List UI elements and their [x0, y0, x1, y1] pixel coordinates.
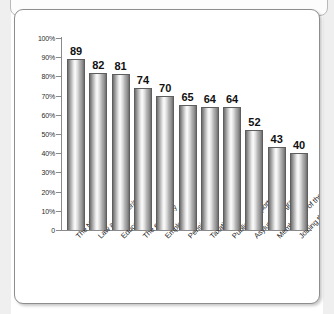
y-axis-tick-label: 80% — [17, 73, 55, 80]
bar-value-label: 43 — [271, 134, 283, 145]
bar-value-label: 64 — [226, 94, 238, 105]
y-axis-tick — [56, 192, 61, 193]
bar-value-label: 74 — [137, 75, 149, 86]
bar-value-label: 65 — [181, 92, 193, 103]
y-axis-tick-label: 70% — [17, 92, 55, 99]
y-axis-tick-label: 30% — [17, 169, 55, 176]
y-axis-tick-label: 10% — [17, 207, 55, 214]
y-axis-tick-labels: 100%90%80%70%60%50%40%30%20%10%0 — [15, 10, 55, 303]
y-axis-tick — [56, 153, 61, 154]
bar-value-label: 40 — [293, 140, 305, 151]
y-axis-tick — [56, 172, 61, 173]
bar — [179, 105, 197, 230]
y-axis-tick-label: 50% — [17, 131, 55, 138]
y-axis-tick-label: 40% — [17, 150, 55, 157]
y-axis-tick-label: 100% — [17, 35, 55, 42]
bar — [67, 59, 85, 230]
y-axis-tick — [56, 57, 61, 58]
bar — [89, 73, 107, 230]
page-gutter-right — [323, 0, 334, 314]
bar — [156, 96, 174, 230]
page-gutter-left — [0, 0, 11, 314]
y-axis-tick — [56, 230, 61, 231]
bar — [245, 130, 263, 230]
bar-value-label: 89 — [70, 46, 82, 57]
bar — [223, 107, 241, 230]
chart-panel: 100%90%80%70%60%50%40%30%20%10%0 The NHS… — [14, 9, 320, 304]
bar-value-label: 81 — [114, 61, 126, 72]
y-axis-tick-label: 0 — [17, 227, 55, 234]
y-axis-tick — [56, 115, 61, 116]
bar — [112, 74, 130, 230]
y-axis-tick-label: 90% — [17, 54, 55, 61]
y-axis-tick — [56, 134, 61, 135]
bar — [201, 107, 219, 230]
y-axis-tick — [56, 211, 61, 212]
y-axis-tick — [56, 38, 61, 39]
bar — [134, 88, 152, 230]
bar-value-label: 70 — [159, 83, 171, 94]
y-axis-tick — [56, 76, 61, 77]
y-axis-tick-label: 60% — [17, 111, 55, 118]
y-axis-tick — [56, 96, 61, 97]
bar — [268, 147, 286, 230]
y-axis-tick-label: 20% — [17, 188, 55, 195]
bar-value-label: 82 — [92, 60, 104, 71]
bar-value-label: 52 — [248, 117, 260, 128]
bar-value-label: 64 — [204, 94, 216, 105]
bar — [290, 153, 308, 230]
